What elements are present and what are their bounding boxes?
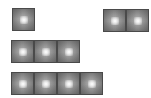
piece-triple[interactable] (11, 40, 80, 63)
tile (34, 40, 57, 63)
tile (80, 72, 103, 95)
tile (126, 9, 149, 32)
tile (57, 72, 80, 95)
tile (34, 72, 57, 95)
piece-single[interactable] (12, 8, 35, 31)
piece-double[interactable] (103, 9, 149, 32)
tile (57, 40, 80, 63)
tile (11, 72, 34, 95)
tile (11, 40, 34, 63)
tile (103, 9, 126, 32)
tile (12, 8, 35, 31)
piece-quad[interactable] (11, 72, 103, 95)
